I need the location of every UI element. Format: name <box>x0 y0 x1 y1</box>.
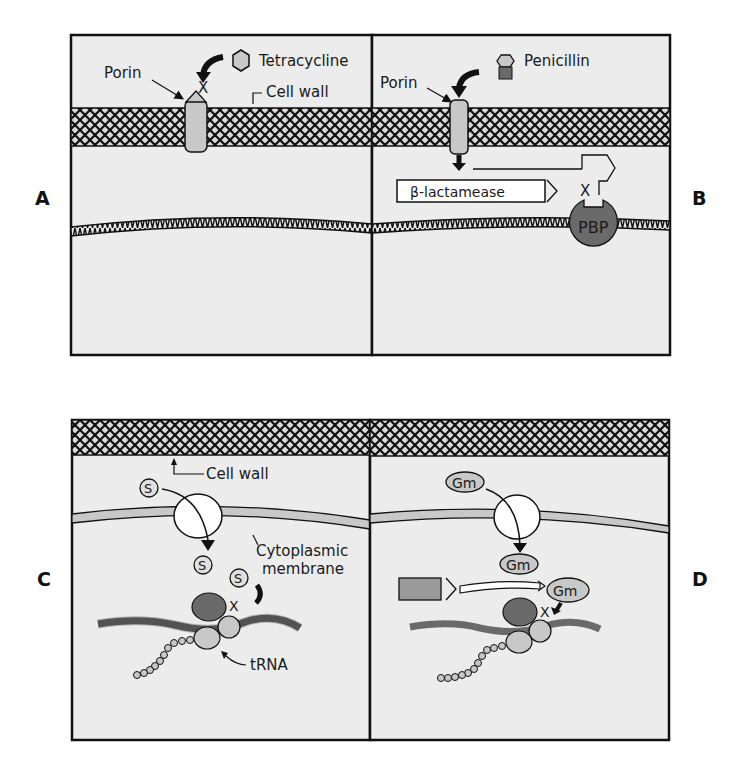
porin-label: Porin <box>380 74 418 92</box>
block-mark: X <box>198 79 208 97</box>
drug-symbol-streptomycin: S <box>144 481 152 496</box>
porin-icon <box>450 100 468 154</box>
panel-c: Cell wall S S Cytoplasmic membrane S X <box>72 420 370 740</box>
diagram-canvas: Porin X Tetracycline Cell wall Porin <box>0 0 745 764</box>
block-mark: X <box>580 182 590 200</box>
panel-d: Gm Gm Gm X <box>370 420 669 740</box>
drug-symbol-streptomycin: S <box>234 571 242 586</box>
panel-letter-b: B <box>692 187 706 209</box>
drug-symbol-streptomycin: S <box>198 558 206 573</box>
porin-icon <box>185 91 207 152</box>
drug-symbol-gentamicin: Gm <box>452 475 477 491</box>
drug-symbol-gentamicin: Gm <box>506 557 531 573</box>
penicillin-icon <box>497 55 514 79</box>
porin-label: Porin <box>104 64 142 82</box>
membrane-channel-icon <box>174 494 222 538</box>
cell-wall-mesh <box>71 108 372 146</box>
ribosome-large-subunit <box>192 593 226 621</box>
panel-b: Porin Penicillin β-lactamease X <box>372 35 670 355</box>
block-mark: X <box>229 598 239 614</box>
ribosome-small-subunit <box>529 620 551 642</box>
antibiotic-resistance-figure: A B C D <box>0 0 745 764</box>
beta-lactamase-label: β-lactamease <box>410 184 505 200</box>
cell-wall-mesh <box>370 420 669 456</box>
tetracycline-hexagon-icon <box>233 50 249 71</box>
membrane-channel-icon <box>494 495 540 539</box>
cell-wall-label: Cell wall <box>266 83 329 101</box>
pbp-label: PBP <box>578 218 609 237</box>
membrane-label-line1: Cytoplasmic <box>256 542 348 560</box>
trna-label: tRNA <box>250 656 289 674</box>
modifying-enzyme-box <box>399 578 441 600</box>
drug-symbol-gentamicin-modified: Gm <box>553 583 578 599</box>
block-mark: X <box>540 604 550 620</box>
trna-icon <box>194 627 220 649</box>
panel-letter-a: A <box>35 187 50 209</box>
membrane-label-line2: membrane <box>262 560 344 578</box>
ribosome-large-subunit <box>503 598 537 626</box>
cell-wall-mesh <box>72 420 370 455</box>
panel-letter-c: C <box>37 568 51 590</box>
panel-a: Porin X Tetracycline Cell wall <box>71 35 372 355</box>
penicillin-label: Penicillin <box>524 52 590 70</box>
cell-wall-mesh <box>372 108 670 146</box>
panel-letter-d: D <box>692 568 708 590</box>
tetracycline-label: Tetracycline <box>258 52 349 70</box>
cell-wall-label: Cell wall <box>206 465 269 483</box>
trna-icon <box>506 631 532 653</box>
ribosome-small-subunit <box>218 616 240 638</box>
